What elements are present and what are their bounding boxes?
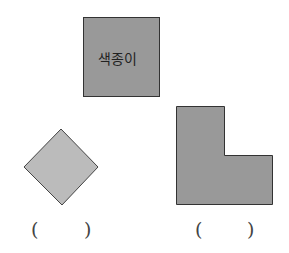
figure: 색종이 ( ) ( ) [0,0,289,253]
answer-blank-1-close: ) [84,220,91,239]
colored-paper-label: 색종이 [98,48,137,68]
answer-blank-2-open: ( [195,220,202,239]
l-shape [177,107,273,205]
answer-blank-2-close: ) [247,220,254,239]
rotated-square-shape [24,129,98,205]
answer-blank-1-open: ( [31,220,38,239]
shapes-canvas [0,0,289,253]
